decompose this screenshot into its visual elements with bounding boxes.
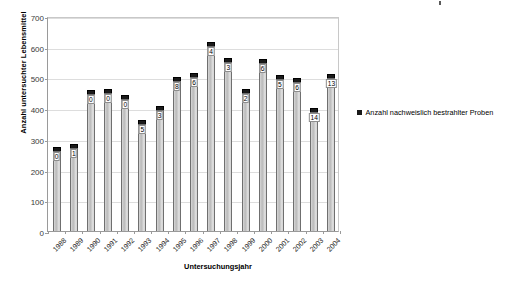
bar-body-examined: [224, 62, 232, 231]
bar-1997[interactable]: 4: [207, 42, 215, 231]
x-axis-title: Untersuchungsjahr: [148, 262, 288, 271]
bar-body-examined: [156, 110, 164, 231]
bar-group: 6: [288, 16, 305, 231]
bar-value-label: 4: [208, 47, 215, 56]
bar-body-examined: [310, 112, 318, 231]
y-tick-label: 0: [40, 229, 44, 238]
bar-body-examined: [207, 46, 215, 231]
bar-2004[interactable]: 13: [327, 74, 335, 231]
bar-value-label: 14: [309, 113, 319, 122]
bar-1992[interactable]: 0: [121, 95, 129, 231]
bar-value-label: 0: [88, 95, 95, 104]
bar-body-examined: [190, 77, 198, 231]
x-tick-label-1998: 1998: [219, 236, 240, 257]
bar-group: 14: [306, 16, 323, 231]
legend-swatch-icon: [357, 110, 362, 115]
bar-group: 5: [134, 16, 151, 231]
bar-value-label: 0: [53, 152, 60, 161]
x-tick-label-2002: 2002: [288, 236, 309, 257]
bar-body-examined: [259, 63, 267, 231]
x-tick-label-1997: 1997: [202, 236, 223, 257]
x-tick-label-2004: 2004: [322, 236, 343, 257]
y-tick-label: 500: [31, 75, 44, 84]
y-tick-label: 300: [31, 136, 44, 145]
legend: Anzahl nachweislich bestrahlter Proben: [357, 108, 517, 118]
bar-1991[interactable]: 0: [104, 89, 112, 231]
x-tick-mark: [340, 231, 341, 234]
bar-group: 0: [48, 16, 65, 231]
bar-value-label: 3: [225, 63, 232, 72]
bar-body-examined: [242, 93, 250, 231]
bar-chart: Anzahl untersuchter Lebensmittel 0100200…: [0, 0, 522, 282]
bar-group: 1: [65, 16, 82, 231]
x-tick-label-1993: 1993: [133, 236, 154, 257]
bar-group: 8: [168, 16, 185, 231]
y-axis-title: Anzahl untersuchter Lebensmittel: [19, 0, 28, 153]
bar-value-label: 3: [156, 111, 163, 120]
bar-body-examined: [138, 124, 146, 231]
bar-group: 13: [323, 16, 340, 231]
y-tick-label: 700: [31, 14, 44, 23]
x-tick-label-1990: 1990: [82, 236, 103, 257]
x-tick-label-1992: 1992: [116, 236, 137, 257]
bar-group: 0: [100, 16, 117, 231]
bar-body-examined: [104, 93, 112, 231]
bar-1996[interactable]: 6: [190, 73, 198, 231]
bar-group: 0: [117, 16, 134, 231]
bar-group: 2: [237, 16, 254, 231]
x-tick-label-1994: 1994: [150, 236, 171, 257]
bar-value-label: 1: [70, 149, 77, 158]
bar-group: 6: [185, 16, 202, 231]
bar-2000[interactable]: 6: [259, 59, 267, 231]
bar-value-label: 0: [105, 94, 112, 103]
bar-group: 3: [220, 16, 237, 231]
bar-body-examined: [173, 81, 181, 231]
plot-area: 0100200300400500600700 01000538643265614…: [47, 17, 339, 232]
x-tick-label-1988: 1988: [47, 236, 68, 257]
y-tick-label: 100: [31, 198, 44, 207]
bar-2001[interactable]: 5: [276, 75, 284, 231]
bar-group: 3: [151, 16, 168, 231]
bar-1995[interactable]: 8: [173, 77, 181, 231]
scan-artifact: [439, 1, 441, 5]
x-axis-tick-labels: 1988198919901991199219931994199519961997…: [47, 233, 339, 263]
legend-item-irradiated-samples: Anzahl nachweislich bestrahlter Proben: [357, 108, 517, 118]
bar-2003[interactable]: 14: [310, 108, 318, 231]
bar-1989[interactable]: 1: [70, 144, 78, 231]
bar-body-examined: [121, 99, 129, 231]
bar-value-label: 8: [173, 82, 180, 91]
x-tick-label-2003: 2003: [305, 236, 326, 257]
bar-group: 0: [82, 16, 99, 231]
bar-value-label: 5: [277, 80, 284, 89]
bar-body-examined: [327, 78, 335, 231]
bar-1993[interactable]: 5: [138, 120, 146, 231]
bar-group: 4: [203, 16, 220, 231]
bar-body-examined: [293, 82, 301, 231]
bar-value-label: 6: [294, 83, 301, 92]
bar-value-label: 6: [259, 64, 266, 73]
bar-group: 5: [271, 16, 288, 231]
bar-1994[interactable]: 3: [156, 106, 164, 231]
y-tick-label: 200: [31, 167, 44, 176]
x-tick-label-2000: 2000: [254, 236, 275, 257]
bar-2002[interactable]: 6: [293, 78, 301, 231]
bar-1990[interactable]: 0: [87, 90, 95, 231]
x-tick-label-1996: 1996: [185, 236, 206, 257]
bar-value-label: 6: [191, 78, 198, 87]
bars-layer: 0100053864326561413: [48, 18, 338, 231]
y-tick-label: 400: [31, 106, 44, 115]
bar-1988[interactable]: 0: [53, 147, 61, 231]
bar-body-examined: [87, 94, 95, 231]
x-tick-label-1989: 1989: [65, 236, 86, 257]
x-tick-label-1995: 1995: [168, 236, 189, 257]
x-tick-label-1999: 1999: [236, 236, 257, 257]
y-tick-label: 600: [31, 44, 44, 53]
bar-body-examined: [276, 79, 284, 231]
bar-1998[interactable]: 3: [224, 58, 232, 231]
bar-1999[interactable]: 2: [242, 89, 250, 231]
bar-value-label: 2: [242, 94, 249, 103]
bar-body-examined: [70, 148, 78, 231]
x-tick-label-1991: 1991: [99, 236, 120, 257]
bar-group: 6: [254, 16, 271, 231]
bar-body-examined: [53, 151, 61, 231]
